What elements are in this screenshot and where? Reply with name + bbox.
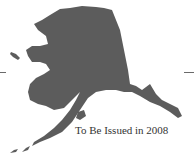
alaska-map-icon [0,0,194,162]
issue-caption: To Be Issued in 2008 [75,124,168,136]
